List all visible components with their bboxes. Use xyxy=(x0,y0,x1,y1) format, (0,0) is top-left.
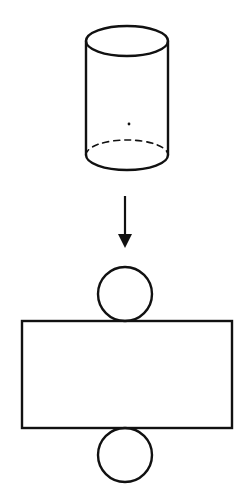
cylinder-net-diagram xyxy=(0,0,251,490)
down-arrow xyxy=(118,196,132,248)
cylinder-bottom-front-arc xyxy=(86,155,168,170)
net-bottom-circle xyxy=(98,428,152,482)
net-top-circle xyxy=(98,267,152,321)
cylinder-net xyxy=(22,267,232,482)
cylinder-bottom-back-arc-dashed xyxy=(86,140,168,155)
arrow-head-icon xyxy=(118,234,132,248)
cylinder-3d xyxy=(86,26,168,170)
cylinder-top-ellipse xyxy=(86,26,168,56)
cylinder-center-dot xyxy=(128,123,131,126)
net-rectangle xyxy=(22,321,232,428)
